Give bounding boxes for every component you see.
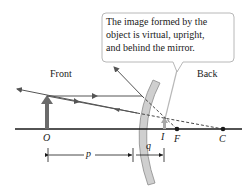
focal-point-dot [175,127,180,132]
object-arrow [41,95,53,129]
callout-pointer-line [165,70,177,119]
image-label: I [161,131,164,142]
callout-text: The image formed by the object is virtua… [106,15,232,54]
callout-line-2: object is virtual, upright, [106,28,232,41]
center-label: C [219,133,226,144]
focal-label: F [174,133,180,144]
q-label: q [146,140,151,151]
p-label: p [86,148,91,159]
ray-1-direction-icon [92,93,98,99]
callout-line-3: and behind the mirror. [106,41,232,54]
ray-2-virtual-extension [137,113,223,129]
front-label: Front [50,68,72,79]
center-of-curvature-dot [221,127,226,132]
ray-1-reflected [114,67,142,96]
object-label: O [43,132,50,143]
callout-line-1: The image formed by the [106,15,232,28]
back-label: Back [197,68,218,79]
